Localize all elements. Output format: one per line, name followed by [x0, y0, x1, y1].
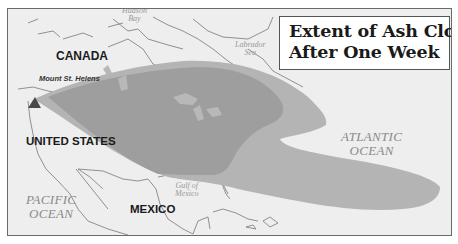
label-united-states: UNITED STATES — [26, 135, 116, 147]
label-mexico: MEXICO — [130, 203, 175, 215]
label-mount-st-helens: Mount St. Helens — [39, 74, 100, 83]
label-gulf-of-mexico: Gulf of Mexico — [175, 182, 199, 199]
label-pacific-ocean: PACIFIC OCEAN — [26, 193, 76, 220]
map-title-box: Extent of Ash Cloud After One Week — [279, 16, 450, 70]
label-canada: CANADA — [56, 49, 108, 63]
map-frame: Extent of Ash Cloud After One Week CANAD… — [7, 8, 452, 236]
label-hudson-bay: Hudson Bay — [122, 8, 147, 24]
label-atlantic-ocean: ATLANTIC OCEAN — [341, 130, 402, 157]
map-title-line-1: Extent of Ash Cloud — [289, 21, 449, 42]
map-title-line-2: After One Week — [289, 42, 449, 63]
label-labrador-sea: Labrador Sea — [235, 41, 266, 58]
